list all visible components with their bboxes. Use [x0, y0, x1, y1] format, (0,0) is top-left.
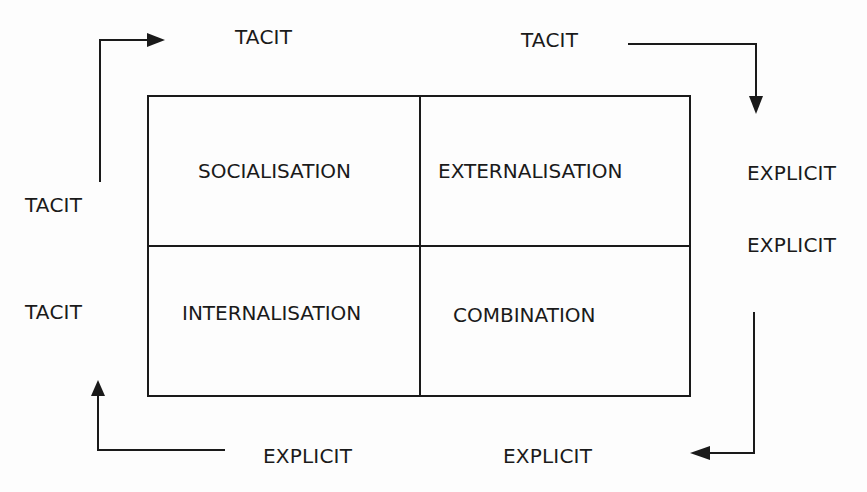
arrow-left-up-line — [98, 395, 225, 450]
arrowhead-down-icon — [749, 96, 763, 114]
arrow-down-left-line — [708, 312, 754, 453]
arrow-right-down-line — [628, 44, 756, 98]
arrowhead-right-icon — [147, 33, 165, 47]
arrowhead-left-icon — [690, 446, 710, 460]
arrow-up-right-line — [100, 40, 150, 182]
conversion-arrows — [0, 0, 867, 492]
arrowhead-up-icon — [91, 380, 105, 396]
